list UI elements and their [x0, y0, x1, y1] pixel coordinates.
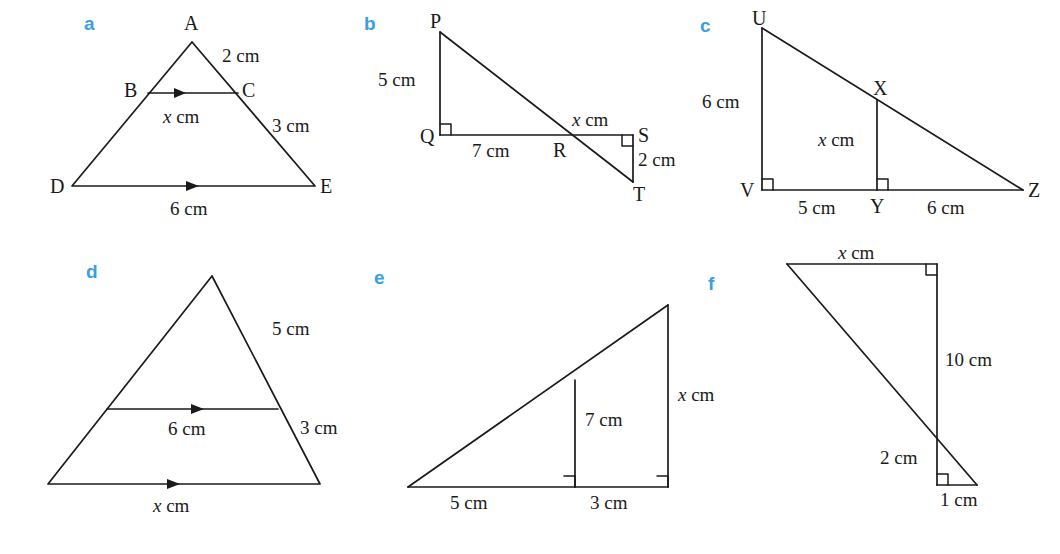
vertex-label-c: C: [242, 80, 255, 100]
figure-sheet: a A B C D E 2 cm 3 cm x cm 6 cm b: [0, 0, 1060, 554]
length-label-right: 10 cm: [945, 350, 992, 369]
vertex-label-r: R: [553, 140, 566, 160]
length-label-rs: x cm: [572, 110, 608, 129]
variable-x: x: [678, 384, 686, 405]
vertex-label-t: T: [633, 184, 645, 204]
length-label-lower-right: 3 cm: [300, 418, 337, 437]
length-label-bc: x cm: [163, 107, 199, 126]
variable-x: x: [163, 106, 171, 127]
length-label-st: 2 cm: [638, 150, 675, 169]
length-label-small-base: 1 cm: [940, 490, 977, 509]
length-label-midline: 6 cm: [168, 419, 205, 438]
vertex-label-v: V: [740, 180, 754, 200]
length-label-de: 6 cm: [170, 199, 207, 218]
panel-f-drawing: [690, 240, 1060, 554]
length-label-yz: 6 cm: [927, 198, 964, 217]
variable-x: x: [153, 495, 161, 516]
variable-x: x: [572, 109, 580, 130]
right-angle-mark-top: [926, 264, 937, 275]
arrow-marker-base: [167, 479, 180, 489]
segment-hypotenuse: [408, 305, 668, 487]
variable-x: x: [838, 242, 846, 263]
triangle-outline: [48, 276, 320, 484]
right-angle-mark-inner: [564, 476, 575, 487]
vertex-label-s: S: [638, 125, 649, 145]
length-label-right-base: 3 cm: [590, 493, 627, 512]
panel-c: c U V X Y Z 6 cm x cm 5 cm 6 cm: [690, 0, 1060, 240]
length-label-xy: x cm: [818, 130, 854, 149]
length-label-ac: 2 cm: [222, 46, 259, 65]
length-label-left-base: 5 cm: [450, 493, 487, 512]
vertex-label-p: P: [430, 11, 441, 31]
vertex-label-z: Z: [1028, 180, 1040, 200]
vertex-label-d: D: [50, 176, 64, 196]
length-label-upper-right: 5 cm: [272, 319, 309, 338]
right-angle-mark-s: [622, 135, 633, 146]
length-label-pq: 5 cm: [378, 70, 415, 89]
length-label-ce: 3 cm: [272, 116, 309, 135]
panel-d: d 5 cm 3 cm 6 cm x cm: [0, 240, 350, 554]
arrow-marker-midline: [191, 404, 204, 414]
length-label-qr: 7 cm: [472, 141, 509, 160]
length-label-base: x cm: [153, 496, 189, 515]
panel-e: e 7 cm x cm 5 cm 3 cm: [350, 240, 690, 554]
segment-pt: [440, 32, 633, 182]
vertex-label-b: B: [124, 80, 137, 100]
right-angle-mark-outer: [657, 476, 668, 487]
panel-f: f x cm 10 cm 2 cm 1 cm: [690, 240, 1060, 554]
vertex-label-y: Y: [870, 196, 884, 216]
right-angle-mark-bottom: [937, 474, 948, 485]
length-label-small-vertical: 2 cm: [880, 448, 917, 467]
vertex-label-a: A: [184, 13, 198, 33]
length-label-inner-height: 7 cm: [585, 410, 622, 429]
panel-b: b P Q R S T 5 cm 7 cm x cm 2 cm: [350, 0, 690, 240]
length-label-top: x cm: [838, 243, 874, 262]
segment-uz: [762, 28, 1023, 190]
arrow-marker-bc: [174, 88, 186, 98]
panel-e-drawing: [350, 240, 690, 554]
variable-x: x: [818, 129, 826, 150]
vertex-label-e: E: [320, 176, 332, 196]
length-label-vy: 5 cm: [798, 198, 835, 217]
vertex-label-u: U: [752, 8, 766, 28]
length-label-uv: 6 cm: [702, 92, 739, 111]
right-angle-mark-q: [440, 124, 451, 135]
right-angle-mark-v: [762, 179, 773, 190]
vertex-label-q: Q: [420, 126, 434, 146]
vertex-label-x: X: [873, 78, 887, 98]
right-angle-mark-y: [877, 179, 888, 190]
arrow-marker-de: [186, 181, 199, 191]
panel-a: a A B C D E 2 cm 3 cm x cm 6 cm: [0, 0, 350, 240]
